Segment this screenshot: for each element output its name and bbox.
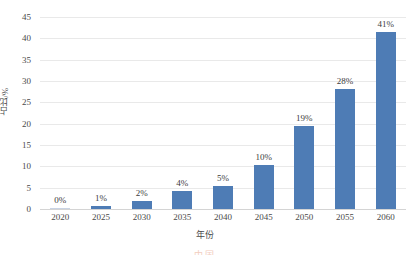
y-axis-tick-label: 5 (27, 183, 32, 192)
bar-slot: 1% (81, 17, 122, 209)
bar-slot: 0% (40, 17, 81, 209)
x-axis-tick-label: 2055 (325, 212, 366, 224)
bar-value-label: 5% (217, 174, 229, 183)
y-axis-tick-label: 0 (27, 205, 32, 214)
y-axis-tick-label: 10 (22, 162, 31, 171)
bar[interactable] (335, 89, 355, 209)
bar-value-label: 0% (54, 196, 66, 205)
x-axis-tick-labels: 202020252030203520402045205020552060 (40, 212, 406, 226)
bar-slot: 28% (325, 17, 366, 209)
bar-value-label: 4% (176, 179, 188, 188)
bar-slot: 4% (162, 17, 203, 209)
x-axis-title: 年份 (0, 228, 409, 241)
bar-slot: 5% (203, 17, 244, 209)
bar-value-label: 41% (377, 20, 394, 29)
bar-slot: 10% (243, 17, 284, 209)
bar-value-label: 28% (337, 77, 354, 86)
x-axis-tick-label: 2045 (243, 212, 284, 224)
bar[interactable] (376, 32, 396, 209)
bar-value-label: 10% (255, 153, 272, 162)
bar-slot: 2% (121, 17, 162, 209)
x-axis-tick-label: 2035 (162, 212, 203, 224)
x-axis-baseline (40, 209, 406, 210)
plot-area: 0%1%2%4%5%10%19%28%41% (40, 17, 406, 209)
bar-slot: 41% (365, 17, 406, 209)
watermark-text: 中国 (0, 248, 409, 255)
y-axis-tick-label: 30 (22, 77, 31, 86)
x-axis-tick-label: 2025 (81, 212, 122, 224)
x-axis-tick-label: 2040 (203, 212, 244, 224)
y-axis-tick-label: 15 (22, 141, 31, 150)
bar-value-label: 2% (136, 189, 148, 198)
y-axis-tick-label: 25 (22, 98, 31, 107)
bar-slot: 19% (284, 17, 325, 209)
y-axis-tick-label: 45 (22, 13, 31, 22)
bar[interactable] (213, 186, 233, 209)
bar[interactable] (50, 208, 70, 210)
bar-value-label: 19% (296, 114, 313, 123)
x-axis-tick-label: 2020 (40, 212, 81, 224)
bar[interactable] (294, 126, 314, 209)
bar[interactable] (91, 206, 111, 209)
y-axis-tick-labels: 051015202530354045 (0, 17, 36, 209)
bar[interactable] (132, 201, 152, 209)
bar-value-label: 1% (95, 194, 107, 203)
x-axis-tick-label: 2060 (365, 212, 406, 224)
x-axis-tick-label: 2050 (284, 212, 325, 224)
y-axis-tick-label: 40 (22, 34, 31, 43)
bar[interactable] (172, 191, 192, 209)
bar[interactable] (254, 165, 274, 209)
y-axis-tick-label: 20 (22, 119, 31, 128)
x-axis-tick-label: 2030 (121, 212, 162, 224)
y-axis-tick-label: 35 (22, 55, 31, 64)
